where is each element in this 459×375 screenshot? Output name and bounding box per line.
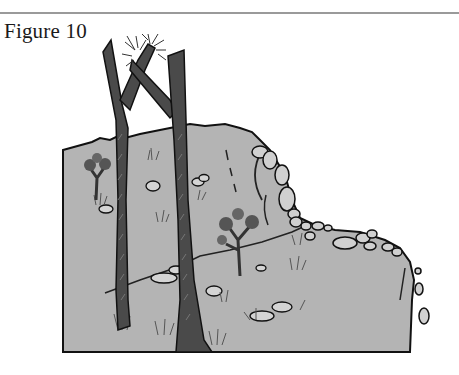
hillside-illustration (0, 0, 459, 375)
